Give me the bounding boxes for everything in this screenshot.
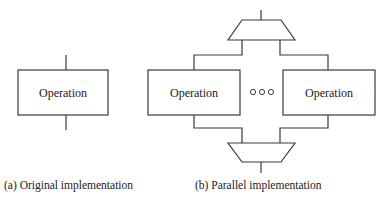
parallel-implementation: Operation Operation	[148, 10, 375, 173]
left-top-connector	[194, 40, 242, 70]
left-bottom-connector	[194, 115, 242, 143]
right-top-connector	[280, 40, 328, 70]
right-bottom-connector	[280, 115, 328, 143]
merge-trapezoid-icon	[228, 143, 295, 162]
split-trapezoid-icon	[228, 20, 295, 40]
diagram-canvas: Operation Operation Operation (a) Or	[0, 0, 389, 203]
original-operation-label: Operation	[39, 86, 87, 100]
caption-original: (a) Original implementation	[4, 179, 133, 192]
parallel-left-operation-label: Operation	[170, 86, 218, 100]
parallel-right-operation-label: Operation	[305, 86, 353, 100]
original-implementation: Operation	[18, 55, 108, 130]
ellipsis-dots-icon	[250, 89, 273, 94]
caption-parallel: (b) Parallel implementation	[195, 179, 322, 192]
